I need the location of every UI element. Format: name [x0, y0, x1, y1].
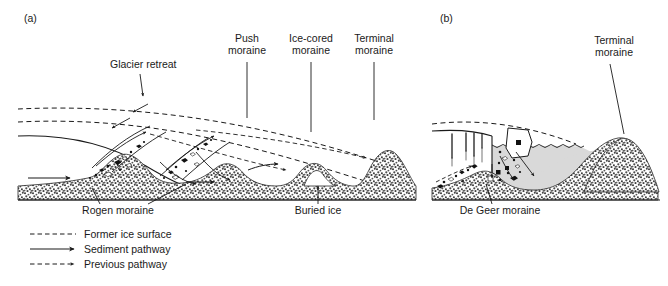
label-push-moraine-line1: Push: [235, 32, 259, 44]
label-ice-cored-moraine-line2: moraine: [292, 44, 330, 56]
label-de-geer-moraine: De Geer moraine: [460, 204, 541, 216]
label-push-moraine-line2: moraine: [228, 44, 266, 56]
label-ice-cored-moraine-line1: Ice-cored: [289, 32, 333, 44]
retreat-arrow-lower: [112, 118, 130, 128]
label-terminal-moraine-a-line2: moraine: [355, 44, 393, 56]
legend-label-previous-pathway: Previous pathway: [84, 258, 168, 270]
label-terminal-moraine-b-line2: moraine: [595, 46, 633, 58]
panel-b: (b): [432, 12, 660, 216]
panel-a: (a) Glacier retreat Push moraine Ice-cor…: [18, 12, 416, 216]
label-terminal-moraine-b-line1: Terminal: [594, 34, 634, 46]
legend-label-sediment-pathway: Sediment pathway: [84, 243, 171, 255]
retreat-arrow-upper: [133, 104, 148, 112]
legend-label-former-ice-surface: Former ice surface: [84, 228, 172, 240]
till-surface-panel-a: [18, 150, 416, 200]
iceberg-clast: [516, 140, 521, 145]
panel-b-label: (b): [440, 12, 453, 24]
label-glacier-retreat: Glacier retreat: [110, 58, 177, 70]
glacier-retreat-leader: [140, 74, 143, 96]
label-rogen-moraine: Rogen moraine: [82, 204, 154, 216]
terminal-moraine-b-leader: [610, 64, 624, 134]
label-buried-ice: Buried ice: [295, 204, 342, 216]
legend: Former ice surface Sediment pathway Prev…: [30, 228, 172, 270]
label-terminal-moraine-a-line1: Terminal: [354, 32, 394, 44]
glacial-moraine-figure: (a) Glacier retreat Push moraine Ice-cor…: [0, 0, 668, 286]
panel-a-label: (a): [24, 12, 37, 24]
